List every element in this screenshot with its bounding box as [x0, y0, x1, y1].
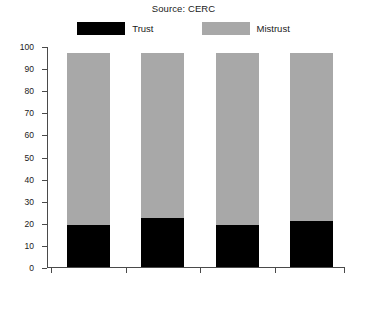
y-tick-label: 10: [25, 242, 34, 251]
y-tick-label: 50: [25, 153, 34, 162]
bar-segment-mistrust-1996: [290, 53, 333, 221]
bar-segment-trust-1988: [67, 225, 110, 267]
y-tick-90: 90: [42, 69, 47, 70]
x-tick-1990: [126, 268, 127, 273]
y-tick-20: 20: [42, 224, 47, 225]
bar-1996: [290, 53, 333, 267]
bar-segment-mistrust-1988: [67, 53, 110, 225]
y-tick-label: 40: [25, 175, 34, 184]
y-tick-60: 60: [42, 135, 47, 136]
y-tick-label: 30: [25, 197, 34, 206]
bar-segment-mistrust-1995: [216, 53, 259, 225]
plot-area: 0102030405060708090100 1988199019951996: [47, 47, 345, 268]
y-tick-label: 100: [20, 43, 34, 52]
y-tick-label: 20: [25, 220, 34, 229]
y-tick-0: 0: [42, 268, 47, 269]
bar-segment-trust-1995: [216, 225, 259, 267]
y-tick-label: 70: [25, 109, 34, 118]
y-tick-50: 50: [42, 158, 47, 159]
bar-segment-trust-1996: [290, 221, 333, 267]
y-tick-100: 100: [42, 47, 47, 48]
y-tick-70: 70: [42, 113, 47, 114]
bar-1995: [216, 53, 259, 267]
stacked-bar-chart: Source: CERC TrustMistrust 0102030405060…: [0, 0, 367, 316]
x-axis-line: [47, 267, 345, 268]
y-tick-label: 90: [25, 65, 34, 74]
y-tick-80: 80: [42, 91, 47, 92]
chart-title: Source: CERC: [0, 3, 367, 14]
legend-label: Trust: [132, 24, 153, 34]
bar-segment-trust-1990: [141, 218, 184, 267]
legend-swatch-trust: [77, 22, 125, 35]
y-tick-10: 10: [42, 246, 47, 247]
y-tick-30: 30: [42, 202, 47, 203]
y-tick-label: 80: [25, 87, 34, 96]
bar-segment-mistrust-1990: [141, 53, 184, 219]
chart-legend: TrustMistrust: [0, 22, 367, 35]
legend-swatch-mistrust: [202, 22, 250, 35]
legend-item-mistrust: Mistrust: [202, 22, 290, 35]
legend-item-trust: Trust: [77, 22, 153, 35]
bar-1990: [141, 53, 184, 267]
x-tick-1988: [51, 268, 52, 273]
y-tick-40: 40: [42, 180, 47, 181]
legend-label: Mistrust: [257, 24, 290, 34]
y-tick-label: 0: [29, 264, 34, 273]
y-tick-label: 60: [25, 131, 34, 140]
x-tick-1995: [200, 268, 201, 273]
y-axis-line: [47, 47, 48, 268]
bar-1988: [67, 53, 110, 267]
x-tick-end: [344, 268, 345, 273]
x-tick-1996: [275, 268, 276, 273]
